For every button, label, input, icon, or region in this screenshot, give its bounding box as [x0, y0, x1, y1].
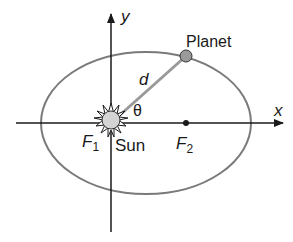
orbit-diagram: y x Planet d θ F1 Sun F2	[0, 0, 293, 242]
x-axis-label: x	[273, 101, 283, 120]
distance-label: d	[139, 70, 149, 89]
focus2-point	[183, 120, 189, 126]
y-axis-label: y	[120, 7, 131, 26]
angle-label: θ	[133, 102, 142, 119]
planet-icon	[180, 50, 192, 62]
focus2-label: F2	[176, 134, 193, 156]
focus1-label: F1	[82, 132, 99, 154]
planet-label: Planet	[186, 33, 232, 50]
sun-label: Sun	[115, 136, 145, 155]
